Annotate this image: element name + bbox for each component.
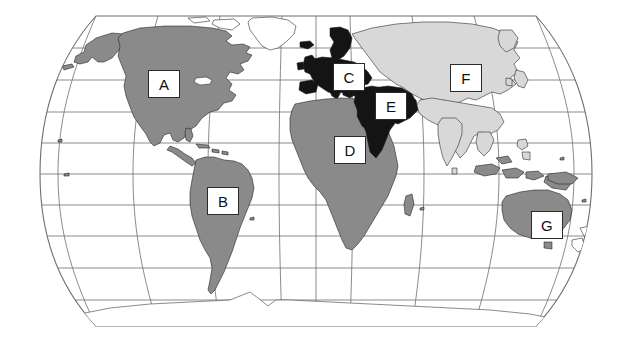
landmass-korea <box>506 78 512 86</box>
region-label-a[interactable]: A <box>148 70 180 98</box>
landmass-tasmania <box>544 242 552 249</box>
landmass-ireland <box>297 62 304 70</box>
figure-caption <box>8 336 608 348</box>
landmass-iberia <box>299 80 318 94</box>
landmass-sri-lanka <box>452 168 457 174</box>
region-label-d[interactable]: D <box>334 136 366 164</box>
region-label-e[interactable]: E <box>375 92 407 120</box>
region-label-b[interactable]: B <box>207 187 239 215</box>
region-label-c[interactable]: C <box>333 63 365 91</box>
region-label-g[interactable]: G <box>531 211 563 239</box>
world-map <box>0 0 632 348</box>
region-label-f[interactable]: F <box>450 64 482 92</box>
figure-root: A B C D E F G <box>0 0 632 348</box>
